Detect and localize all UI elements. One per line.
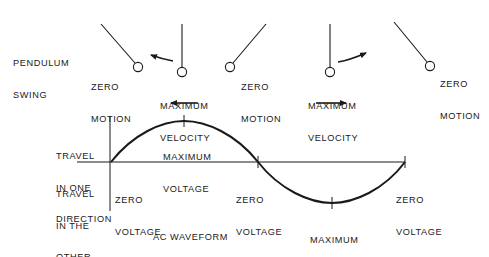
label-line: MAXIMUM (160, 101, 210, 112)
label-line: VOLTAGE (396, 227, 442, 238)
pendulum-swing-label: PENDULUM SWING (13, 37, 69, 121)
point-label-zero-end: ZERO VOLTAGE (396, 174, 442, 257)
label-line: VOLTAGE (163, 184, 212, 195)
label-line: MAXIMUM (163, 152, 212, 163)
label-line: MAXIMUM (308, 101, 358, 112)
label-line: ZERO (91, 82, 131, 93)
pendulum-left-extreme-2 (394, 22, 435, 71)
label-line: PENDULUM (13, 58, 69, 69)
label-line: ZERO (115, 195, 161, 206)
label-line: MOTION (91, 114, 131, 125)
label-line: MOTION (241, 114, 281, 125)
point-label-zero-mid: ZERO VOLTAGE (236, 174, 282, 257)
label-line: VOLTAGE (236, 227, 282, 238)
state-label-max-velocity-2: MAXIMUM VELOCITY (308, 80, 358, 164)
label-line: TRAVEL (56, 189, 112, 200)
label-line: VELOCITY (308, 133, 358, 144)
state-label-zero-motion-2: ZERO MOTION (241, 61, 281, 145)
label-line: ZERO (440, 79, 480, 90)
ac-waveform-pendulum-diagram: PENDULUM SWING ZERO MOTION MAXIMUM VELOC… (0, 0, 489, 257)
point-label-max-reversed: MAXIMUM VOLTAGE REVERSED (310, 214, 365, 257)
label-line: MAXIMUM (310, 235, 365, 246)
label-line: IN THE (56, 221, 112, 232)
label-line: SWING (13, 90, 69, 101)
y-label-negative: TRAVEL IN THE OTHER DIRECTION (56, 168, 112, 257)
label-line: MOTION (440, 111, 480, 122)
point-label-zero-start: ZERO VOLTAGE (115, 174, 161, 257)
label-line: TRAVEL (56, 151, 112, 162)
label-line: ZERO (241, 82, 281, 93)
waveform-title: AC WAVEFORM (153, 232, 228, 243)
label-line: ZERO (236, 195, 282, 206)
swing-arrow-right-icon (338, 53, 366, 62)
point-label-max-voltage: MAXIMUM VOLTAGE (163, 131, 212, 215)
label-line: ZERO (396, 195, 442, 206)
pendulum-center-1 (177, 24, 186, 77)
swing-arrow-left-icon (151, 55, 173, 61)
state-label-zero-motion-3: ZERO MOTION (440, 58, 480, 142)
label-line: OTHER (56, 252, 112, 257)
pendulum-center-2 (325, 24, 334, 77)
